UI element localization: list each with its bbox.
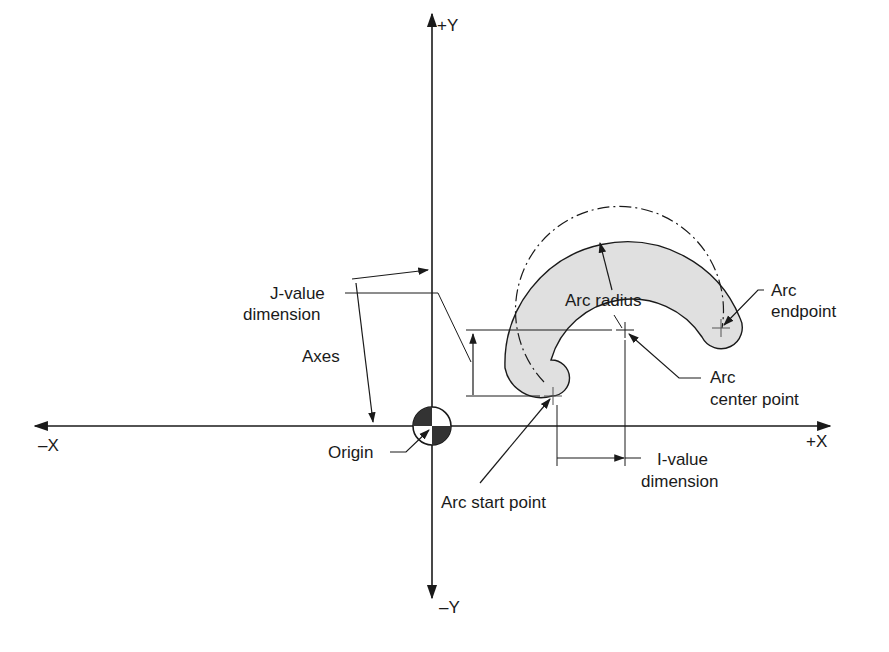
origin-label: Origin [328, 443, 373, 463]
j-value-label-line2: dimension [243, 305, 321, 325]
axes-label: Axes [302, 347, 340, 367]
arc-radius-label: Arc radius [565, 291, 642, 311]
i-value-label-line1: I-value [657, 450, 708, 470]
axes-leader-x [356, 283, 373, 422]
j-value-label-line1: J-value [270, 284, 325, 304]
i-value-label-line2: dimension [641, 472, 719, 492]
arc-diagram-canvas [0, 0, 889, 652]
plus-x-label: +X [806, 432, 827, 452]
minus-y-label: –Y [439, 598, 460, 618]
axes-leader-y [352, 270, 428, 279]
arc-center-leader [629, 334, 701, 378]
arc-endpoint-label-line2: endpoint [771, 302, 836, 322]
plus-y-label: +Y [437, 16, 458, 36]
arc-start-point-label: Arc start point [441, 493, 546, 513]
minus-x-label: –X [38, 436, 59, 456]
arc-center-label-line2: center point [710, 390, 799, 410]
arc-endpoint-label-line1: Arc [771, 281, 797, 301]
arc-center-label-line1: Arc [710, 368, 736, 388]
arc-start-leader [480, 399, 550, 483]
arc-band [505, 242, 742, 398]
